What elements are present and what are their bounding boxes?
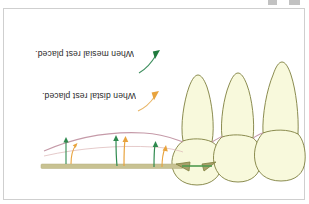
tooth-3-root — [263, 62, 298, 134]
dental-diagram-canvas — [4, 9, 306, 201]
force-arrows-group — [63, 135, 167, 167]
mesial-force-arrowhead-2 — [113, 135, 119, 141]
tooth-3 — [254, 62, 305, 181]
figure-viewer: When mesial rest placed. When distal res… — [0, 0, 309, 204]
tooth-2 — [213, 73, 261, 182]
tooth-2-root — [221, 73, 253, 138]
figure-frame: When mesial rest placed. When distal res… — [3, 8, 305, 200]
gingiva-secondary-curve — [44, 146, 183, 156]
mesial-force-arrow-3 — [154, 145, 155, 167]
distal-pointer-arrow — [138, 91, 159, 111]
window-control-icon-1[interactable] — [268, 0, 277, 5]
distal-force-arrowhead-2 — [123, 136, 129, 142]
force-arrow-pair-2 — [113, 135, 128, 166]
mesial-rest-caption: When mesial rest placed. — [10, 49, 134, 58]
window-chrome-strip — [0, 0, 309, 7]
distal-force-arrowhead-1 — [73, 143, 78, 148]
distal-force-arrow-2 — [124, 140, 125, 166]
window-control-icon-2[interactable] — [289, 0, 300, 5]
mesial-force-arrow-2 — [116, 139, 117, 166]
tooth-3-crown — [254, 130, 305, 181]
mesial-pointer-arrow — [139, 50, 160, 73]
tooth-1-root — [182, 75, 213, 142]
mesial-force-arrowhead-3 — [153, 141, 159, 147]
distal-rest-caption: When distal rest placed. — [18, 91, 136, 100]
tooth-2-crown — [213, 135, 261, 182]
mesial-force-arrowhead-1 — [63, 137, 68, 143]
force-arrow-pair-3 — [153, 141, 168, 167]
distal-force-arrow-1 — [71, 145, 76, 164]
